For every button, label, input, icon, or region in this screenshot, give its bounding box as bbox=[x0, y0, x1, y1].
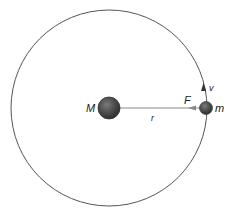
force-arrow-icon bbox=[188, 106, 196, 111]
orbiting-mass-label: m bbox=[215, 102, 224, 114]
radius-label: r bbox=[151, 113, 155, 123]
central-mass bbox=[98, 97, 120, 119]
central-mass-label: M bbox=[86, 102, 96, 114]
velocity-arrow-icon bbox=[201, 83, 206, 91]
orbiting-mass bbox=[200, 102, 213, 115]
velocity-label: v bbox=[209, 83, 214, 93]
orbit-diagram: M m r F v bbox=[0, 0, 237, 215]
force-label: F bbox=[184, 94, 192, 106]
